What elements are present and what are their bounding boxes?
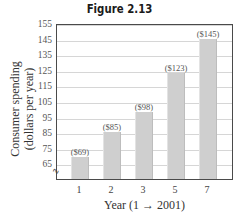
bar: [167, 73, 185, 179]
x-tick-label: 7: [197, 184, 217, 195]
bar-value-label: ($85): [92, 122, 132, 132]
bar: [103, 132, 121, 179]
bar: [199, 39, 217, 179]
y-tick-label: 95: [28, 113, 52, 123]
y-tick-label: 115: [28, 81, 52, 91]
y-tick-label: 125: [28, 66, 52, 76]
plot-area: ($69)($85)($98)($123)($145): [56, 24, 233, 180]
gridline: [57, 25, 232, 26]
bar-value-label: ($145): [188, 29, 228, 39]
bar-value-label: ($98): [124, 102, 164, 112]
x-axis-label: Year (1 → 2001): [56, 198, 233, 213]
x-tick-label: 1: [69, 184, 89, 195]
bar: [135, 112, 153, 179]
bar: [71, 157, 89, 179]
y-tick-label: 85: [28, 128, 52, 138]
figure-title: Figure 2.13: [18, 2, 221, 16]
y-tick-label: 135: [28, 50, 52, 60]
y-tick-label: 75: [28, 144, 52, 154]
y-tick-label: 65: [28, 159, 52, 169]
bar-value-label: ($123): [156, 63, 196, 73]
y-tick-label: 155: [28, 19, 52, 29]
x-tick-label: 3: [133, 184, 153, 195]
x-tick-label: 5: [165, 184, 185, 195]
y-tick-label: 105: [28, 97, 52, 107]
y-tick-label: 145: [28, 35, 52, 45]
x-tick-label: 2: [101, 184, 121, 195]
y-axis-label-line-1: Consumer spending: [8, 34, 22, 184]
bar-value-label: ($69): [60, 147, 100, 157]
